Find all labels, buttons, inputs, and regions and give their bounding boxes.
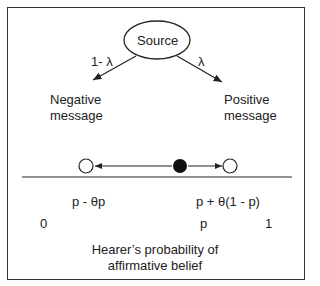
tick-zero: 0 — [40, 216, 47, 231]
positive-message-line2: message — [224, 108, 277, 123]
negative-probability-label: 1- λ — [91, 54, 113, 69]
source-label: Source — [137, 33, 178, 48]
prior-belief-point — [173, 159, 187, 173]
tick-p: p — [200, 216, 207, 231]
tick-one: 1 — [265, 216, 272, 231]
lower-belief-point — [79, 159, 93, 173]
upper-belief-point — [223, 159, 237, 173]
axis-title-line2: affirmative belief — [80, 258, 230, 273]
axis-title-line1: Hearer’s probability of — [80, 242, 230, 257]
negative-message-line1: Negative — [50, 92, 101, 107]
positive-probability-label: λ — [198, 54, 205, 69]
lower-belief-label: p - θp — [72, 194, 105, 209]
positive-message-line1: Positive — [224, 92, 270, 107]
negative-message-line2: message — [50, 108, 103, 123]
upper-belief-label: p + θ(1 - p) — [196, 194, 260, 209]
